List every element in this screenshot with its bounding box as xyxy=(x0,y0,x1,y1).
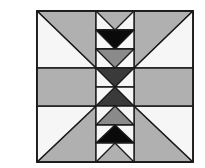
left-band xyxy=(37,68,96,106)
right-band xyxy=(134,68,193,106)
quilt-block xyxy=(37,11,193,162)
quilt-block-diagram xyxy=(0,0,205,168)
